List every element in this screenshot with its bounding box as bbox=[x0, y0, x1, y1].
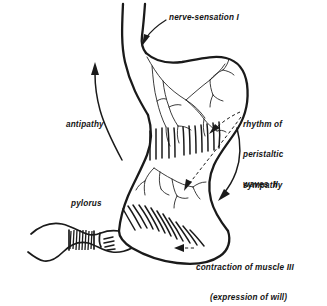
label-sympathy: sympathy bbox=[243, 181, 282, 191]
label-antipathy: antipathy bbox=[66, 120, 104, 130]
peristaltic-hatching-upper bbox=[150, 122, 220, 160]
pylorus-outlet-hatching bbox=[104, 237, 115, 250]
label-contraction-line-2: (expression of will) bbox=[196, 293, 294, 303]
antipathy-arrow bbox=[91, 62, 122, 160]
contraction-leader bbox=[174, 244, 194, 252]
esophagus bbox=[122, 4, 148, 115]
label-contraction-of-muscle: contraction of muscle III (expression of… bbox=[196, 243, 294, 306]
label-rhythm-line-2: peristaltic bbox=[243, 150, 283, 160]
pyloric-sphincter bbox=[69, 230, 94, 250]
greater-curvature bbox=[209, 84, 247, 231]
sympathy-arrow bbox=[218, 128, 240, 201]
label-rhythm-of-peristaltic-waves: rhythm of peristaltic waves II bbox=[243, 100, 283, 210]
label-pylorus: pylorus bbox=[71, 199, 102, 209]
label-rhythm-line-1: rhythm of bbox=[243, 120, 283, 130]
nerve-sensation-leader bbox=[142, 20, 166, 46]
label-contraction-line-1: contraction of muscle III bbox=[196, 263, 294, 273]
lesser-curvature bbox=[119, 115, 151, 231]
peristaltic-hatching-lower bbox=[123, 205, 204, 246]
label-nerve-sensation: nerve-sensation I bbox=[169, 13, 239, 23]
